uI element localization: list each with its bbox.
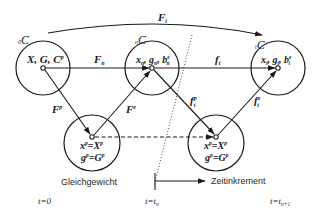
- point-plastic-1: [90, 135, 94, 139]
- label-f-t: ft: [215, 53, 221, 66]
- label-config-nC: nC: [135, 33, 147, 47]
- content-initial: X, G, Cp: [26, 53, 64, 65]
- label-F-n: Fn: [93, 53, 105, 66]
- arc-F-t: [48, 24, 262, 35]
- label-f-t-p: fpt: [190, 94, 197, 108]
- label-F-e: Fe: [125, 103, 136, 115]
- point-plastic-2: [214, 135, 218, 139]
- arrow-F-e: [94, 71, 150, 135]
- label-config-0C: 0C: [18, 33, 30, 47]
- arrow-f-t-p: [154, 70, 214, 134]
- content-plastic-1-line1: xp=Xp: [79, 140, 103, 151]
- content-plastic-1-line2: gp=Gp: [80, 152, 105, 163]
- content-plastic-2-line1: xp=Xp: [203, 140, 227, 151]
- point-initial: [41, 66, 45, 70]
- label-F-p: Fp: [51, 103, 62, 115]
- label-time-increment: Zeitinkrement: [211, 176, 266, 186]
- time-label-t0: t=0: [38, 196, 52, 206]
- content-current: xn, gn, ben: [135, 54, 170, 66]
- time-label-tn: t=tn: [145, 196, 159, 207]
- time-label-tn1: t=tn+1: [270, 196, 291, 207]
- label-equilibrium: Gleichgewicht: [61, 177, 118, 187]
- label-F-t: Ft: [157, 11, 167, 24]
- content-plastic-2-line2: gp=Gp: [204, 152, 229, 163]
- point-next: [276, 66, 280, 70]
- label-config-tC: tC: [255, 38, 266, 52]
- point-current: [150, 66, 154, 70]
- label-f-t-e: fet: [254, 94, 261, 108]
- arrow-f-t-e: [218, 71, 276, 135]
- continuum-mechanics-diagram: Ft 0C nC tC X, G, Cp xn, gn, ben xt, gt,…: [0, 0, 317, 218]
- content-next: xt, gt, bet: [260, 54, 292, 66]
